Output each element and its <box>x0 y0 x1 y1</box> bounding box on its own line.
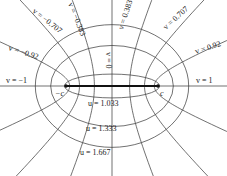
curves-layer <box>0 0 227 176</box>
right-focus-label: c <box>160 89 164 98</box>
right-focus-point <box>156 84 160 88</box>
labels-layer: −ccu = 1.033u = 1.333u = 1.667v = −0.92v… <box>6 0 222 157</box>
elliptic-coordinates-diagram: −ccu = 1.033u = 1.333u = 1.667v = −0.92v… <box>0 0 227 176</box>
hyperbola-v-3 <box>130 0 227 176</box>
left-focus-point <box>64 84 68 88</box>
axis-label-1: v = 1 <box>196 76 213 85</box>
hyperbola-v-4 <box>145 0 227 176</box>
hyperbola-label-1: v = −0.707 <box>31 6 64 35</box>
left-focus-label: −c <box>55 89 64 98</box>
hyperbola-label-5: v = 0.92 <box>194 39 222 56</box>
hyperbola-label-4: v = 0.707 <box>161 4 190 31</box>
axis-label-2: v = 0 <box>104 52 113 69</box>
hyperbola-label-2: v = −0.383 <box>66 1 87 37</box>
diagram-canvas: −ccu = 1.033u = 1.333u = 1.667v = −0.92v… <box>0 0 227 176</box>
axis-label-0: v = −1 <box>6 76 27 85</box>
hyperbola-v-1 <box>0 0 79 176</box>
ellipse-label-2: u = 1.667 <box>80 148 111 157</box>
ellipse-label-1: u = 1.333 <box>86 124 117 133</box>
ellipse-label-0: u = 1.033 <box>88 99 119 108</box>
hyperbola-label-0: v = −0.92 <box>7 43 39 61</box>
hyperbola-label-3: v = 0.383 <box>116 0 134 31</box>
